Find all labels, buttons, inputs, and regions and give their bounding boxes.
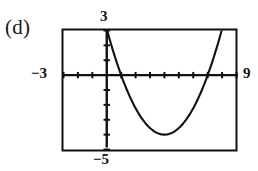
axes-group	[62, 30, 238, 148]
plot-area	[0, 0, 258, 171]
plot-frame	[63, 30, 237, 151]
figure-container: (d) 3 −5 −3 9	[0, 0, 258, 171]
parabola-curve	[97, 0, 232, 135]
